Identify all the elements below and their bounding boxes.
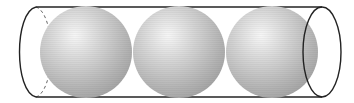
left-cap-outline	[20, 7, 37, 97]
sphere-2	[133, 6, 225, 98]
cylinder-spheres-diagram	[0, 0, 354, 103]
sphere-1	[40, 6, 132, 98]
sphere-3	[226, 6, 318, 98]
figure-canvas	[0, 0, 354, 103]
